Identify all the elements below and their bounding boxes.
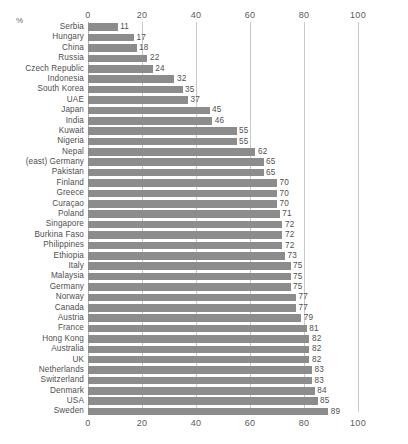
- bar-track: 89: [88, 408, 358, 416]
- bar-track: 82: [88, 356, 358, 364]
- bar: [88, 387, 315, 395]
- bar-row: Greece70: [0, 188, 408, 198]
- bar-row: Austria79: [0, 313, 408, 323]
- x-axis-tick-bottom-0: 0: [85, 418, 90, 428]
- bar-value-label: 89: [331, 407, 341, 417]
- bar: [88, 356, 309, 364]
- bar-value-label: 85: [320, 396, 330, 406]
- x-axis-tick-top-60: 60: [245, 10, 256, 20]
- bar-track: 70: [88, 200, 358, 208]
- category-label: Germany: [0, 282, 84, 292]
- bar-value-label: 65: [266, 157, 276, 167]
- category-label: Australia: [0, 344, 84, 354]
- bar: [88, 325, 307, 333]
- bar: [88, 23, 118, 31]
- bar: [88, 158, 264, 166]
- bar: [88, 117, 212, 125]
- bar-row: Pakistan65: [0, 167, 408, 177]
- category-label: (east) Germany: [0, 157, 84, 167]
- bar-value-label: 32: [177, 74, 187, 84]
- bar-track: 24: [88, 65, 358, 73]
- bar: [88, 408, 328, 416]
- x-axis-tick-top-100: 100: [350, 10, 366, 20]
- bar-track: 73: [88, 252, 358, 260]
- x-axis-tick-bottom-40: 40: [191, 418, 202, 428]
- bar-track: 82: [88, 346, 358, 354]
- bar-value-label: 72: [285, 220, 295, 230]
- bar-track: 22: [88, 55, 358, 63]
- category-label: Nepal: [0, 147, 84, 157]
- category-label: Pakistan: [0, 167, 84, 177]
- bar: [88, 221, 282, 229]
- bar-row: Czech Republic24: [0, 64, 408, 74]
- bar-value-label: 22: [150, 53, 160, 63]
- bar-track: 77: [88, 294, 358, 302]
- x-axis-tick-bottom-80: 80: [299, 418, 310, 428]
- bar-row: India46: [0, 116, 408, 126]
- bar-track: 72: [88, 221, 358, 229]
- bar-row: Hungary17: [0, 32, 408, 42]
- category-label: Hungary: [0, 32, 84, 42]
- bar-row: Philippines72: [0, 240, 408, 250]
- bar: [88, 127, 237, 135]
- bar: [88, 148, 255, 156]
- bar-value-label: 71: [282, 209, 292, 219]
- bar: [88, 283, 291, 291]
- bar-track: 83: [88, 377, 358, 385]
- bar: [88, 377, 312, 385]
- bar-row: Nepal62: [0, 147, 408, 157]
- category-label: Ethiopia: [0, 251, 84, 261]
- x-axis-tick-top-20: 20: [137, 10, 148, 20]
- category-label: Norway: [0, 292, 84, 302]
- category-label: Switzerland: [0, 375, 84, 385]
- bar-row: Italy75: [0, 261, 408, 271]
- bar-track: 32: [88, 75, 358, 83]
- category-label: Italy: [0, 261, 84, 271]
- bar-row: Burkina Faso72: [0, 230, 408, 240]
- bar: [88, 314, 301, 322]
- bar: [88, 252, 285, 260]
- bar-value-label: 46: [215, 116, 225, 126]
- bar-track: 65: [88, 158, 358, 166]
- bar: [88, 242, 282, 250]
- category-label: Canada: [0, 303, 84, 313]
- bar-track: 65: [88, 169, 358, 177]
- x-axis-tick-bottom-100: 100: [350, 418, 366, 428]
- category-label: China: [0, 43, 84, 53]
- category-label: South Korea: [0, 84, 84, 94]
- category-label: France: [0, 323, 84, 333]
- category-label: India: [0, 116, 84, 126]
- bar-value-label: 82: [312, 355, 322, 365]
- bar-track: 75: [88, 262, 358, 270]
- category-label: Czech Republic: [0, 64, 84, 74]
- category-label: Serbia: [0, 22, 84, 32]
- bar: [88, 55, 147, 63]
- category-label: Malaysia: [0, 271, 84, 281]
- bar-row: Kuwait55: [0, 126, 408, 136]
- bar-value-label: 62: [258, 147, 268, 157]
- bar: [88, 210, 280, 218]
- category-label: Kuwait: [0, 126, 84, 136]
- bar-value-label: 35: [185, 85, 195, 95]
- horizontal-bar-chart: % 002020404060608080100100 Serbia11Hunga…: [0, 0, 408, 444]
- bar-rows: Serbia11Hungary17China18Russia22Czech Re…: [0, 22, 408, 417]
- bar-value-label: 24: [155, 64, 165, 74]
- bar-value-label: 73: [288, 251, 298, 261]
- bar-row: South Korea35: [0, 84, 408, 94]
- bar-row: Singapore72: [0, 219, 408, 229]
- bar-track: 55: [88, 127, 358, 135]
- bar-row: Switzerland83: [0, 375, 408, 385]
- bar-value-label: 83: [315, 365, 325, 375]
- bar-track: 75: [88, 283, 358, 291]
- bar-track: 37: [88, 96, 358, 104]
- bar: [88, 304, 296, 312]
- bar-value-label: 55: [239, 126, 249, 136]
- category-label: Greece: [0, 188, 84, 198]
- bar-row: USA85: [0, 396, 408, 406]
- bar-row: Russia22: [0, 53, 408, 63]
- bar: [88, 65, 153, 73]
- bar-value-label: 84: [317, 386, 327, 396]
- bar-row: Curaçao70: [0, 199, 408, 209]
- bar-value-label: 77: [298, 303, 308, 313]
- bar-track: 11: [88, 23, 358, 31]
